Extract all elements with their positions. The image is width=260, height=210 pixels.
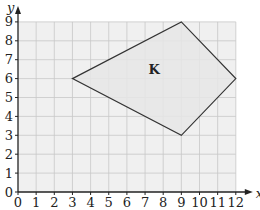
x-tick-label: 9 <box>177 195 185 210</box>
y-tick-label: 2 <box>5 147 13 162</box>
y-axis-tick-labels: 0123456789 <box>5 14 13 199</box>
x-axis-label: x <box>256 186 260 201</box>
x-tick-label: 11 <box>209 195 226 210</box>
x-tick-label: 5 <box>105 195 113 210</box>
y-tick-label: 4 <box>5 109 13 124</box>
y-tick-label: 9 <box>5 14 13 29</box>
x-tick-label: 10 <box>191 195 208 210</box>
y-tick-label: 5 <box>5 90 13 105</box>
x-axis-tick-labels: 0123456789101112 <box>14 195 244 210</box>
x-tick-label: 1 <box>32 195 40 210</box>
x-tick-label: 3 <box>68 195 76 210</box>
y-tick-label: 7 <box>5 52 13 67</box>
x-tick-label: 6 <box>123 195 131 210</box>
y-tick-label: 0 <box>5 185 13 200</box>
y-tick-label: 3 <box>5 128 13 143</box>
coordinate-grid: K 0123456789101112 0123456789 x y <box>0 0 260 210</box>
x-tick-label: 12 <box>228 195 245 210</box>
x-tick-label: 7 <box>141 195 149 210</box>
x-tick-label: 4 <box>86 195 94 210</box>
y-tick-label: 8 <box>5 33 13 48</box>
y-tick-label: 6 <box>5 71 13 86</box>
y-axis-label: y <box>6 0 15 15</box>
shape-label-k: K <box>148 62 160 77</box>
x-tick-label: 0 <box>14 195 22 210</box>
x-tick-label: 8 <box>159 195 167 210</box>
y-tick-label: 1 <box>5 166 13 181</box>
x-tick-label: 2 <box>50 195 58 210</box>
